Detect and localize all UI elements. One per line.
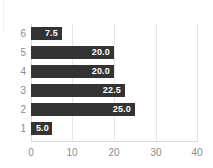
- x-axis-tick-label: 10: [52, 145, 92, 161]
- gridline-10: [72, 24, 73, 141]
- y-axis-tick-label: 3: [6, 84, 26, 97]
- plot-area: 7.5 20.0 20.0 22.5 25.0 5.0: [31, 24, 198, 141]
- y-axis-tick-labels: 6 5 4 3 2 1: [2, 24, 26, 141]
- bar-value-label: 7.5: [31, 27, 58, 40]
- gridline-30: [156, 24, 157, 141]
- y-axis-tick-label: 6: [6, 27, 26, 40]
- bar-value-label: 25.0: [31, 103, 131, 116]
- x-axis-baseline: [31, 141, 198, 142]
- bar-value-label: 20.0: [31, 65, 110, 78]
- x-axis-tick-label: 0: [11, 145, 51, 161]
- gridline-20: [114, 24, 115, 141]
- bar-value-label: 20.0: [31, 46, 110, 59]
- x-axis-tick-label: 20: [94, 145, 134, 161]
- x-axis-tick-labels: 0 10 20 30 40: [31, 145, 198, 161]
- y-axis-tick-label: 4: [6, 65, 26, 78]
- y-axis-tick-label: 1: [6, 122, 26, 135]
- gridline-40: [197, 24, 198, 141]
- bar-value-label: 22.5: [31, 84, 121, 97]
- x-axis-tick-label: 30: [136, 145, 176, 161]
- y-axis-tick-label: 2: [6, 103, 26, 116]
- y-axis-tick-label: 5: [6, 46, 26, 59]
- bar-chart: 7.5 20.0 20.0 22.5 25.0 5.0 6 5: [0, 0, 213, 168]
- bar-value-label: 5.0: [31, 122, 49, 135]
- x-axis-tick-label: 40: [177, 145, 213, 161]
